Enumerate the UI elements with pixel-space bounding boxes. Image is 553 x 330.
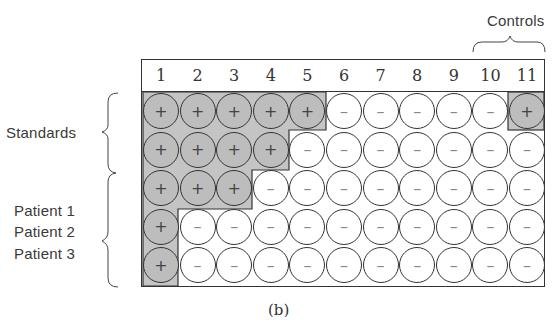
well-r5-c2-negative: – [180, 247, 216, 283]
well-r2-c5-negative: – [289, 132, 325, 168]
column-header-11: 11 [509, 66, 545, 85]
figure-caption: (b) [268, 301, 289, 319]
column-header-1: 1 [143, 66, 179, 85]
well-r1-c8-negative: – [399, 93, 435, 129]
well-r2-c9-negative: – [436, 132, 472, 168]
well-r4-c8-negative: – [399, 209, 435, 245]
well-r2-c10-negative: – [472, 132, 508, 168]
well-r2-c1-positive: + [143, 132, 179, 168]
well-r4-c7-negative: – [363, 209, 399, 245]
well-r3-c9-negative: – [436, 170, 472, 206]
well-r3-c7-negative: – [363, 170, 399, 206]
well-r3-c2-positive: + [180, 170, 216, 206]
well-r4-c4-negative: – [253, 209, 289, 245]
well-r1-c2-positive: + [180, 93, 216, 129]
patient1-label: Patient 1 [14, 202, 75, 219]
well-r1-c11-positive: + [509, 93, 545, 129]
well-r4-c6-negative: – [326, 209, 362, 245]
well-r4-c5-negative: – [289, 209, 325, 245]
well-r1-c7-negative: – [363, 93, 399, 129]
well-r1-c9-negative: – [436, 93, 472, 129]
well-r4-c1-positive: + [143, 209, 179, 245]
well-r1-c3-positive: + [216, 93, 252, 129]
column-header-7: 7 [363, 66, 399, 85]
column-header-6: 6 [326, 66, 362, 85]
well-r2-c8-negative: – [399, 132, 435, 168]
column-header-3: 3 [216, 66, 252, 85]
column-header-10: 10 [472, 66, 508, 85]
well-r4-c2-negative: – [180, 209, 216, 245]
well-r3-c11-negative: – [509, 170, 545, 206]
well-r5-c7-negative: – [363, 247, 399, 283]
well-r3-c1-positive: + [143, 170, 179, 206]
column-header-5: 5 [289, 66, 325, 85]
well-r2-c3-positive: + [216, 132, 252, 168]
column-header-2: 2 [180, 66, 216, 85]
column-header-9: 9 [436, 66, 472, 85]
standards-label: Standards [6, 124, 76, 141]
well-r2-c4-positive: + [253, 132, 289, 168]
well-r3-c4-negative: – [253, 170, 289, 206]
patient2-label: Patient 2 [14, 223, 75, 240]
column-header-4: 4 [253, 66, 289, 85]
well-r2-c6-negative: – [326, 132, 362, 168]
well-r1-c1-positive: + [143, 93, 179, 129]
well-r5-c4-negative: – [253, 247, 289, 283]
well-r2-c2-positive: + [180, 132, 216, 168]
patient3-label: Patient 3 [14, 245, 75, 262]
well-r3-c6-negative: – [326, 170, 362, 206]
column-header-8: 8 [399, 66, 435, 85]
well-r4-c3-negative: – [216, 209, 252, 245]
well-r5-c9-negative: – [436, 247, 472, 283]
well-r4-c11-negative: – [509, 209, 545, 245]
well-r4-c10-negative: – [472, 209, 508, 245]
well-r4-c9-negative: – [436, 209, 472, 245]
well-r1-c6-negative: – [326, 93, 362, 129]
well-r2-c11-negative: – [509, 132, 545, 168]
well-r1-c4-positive: + [253, 93, 289, 129]
well-r2-c7-negative: – [363, 132, 399, 168]
